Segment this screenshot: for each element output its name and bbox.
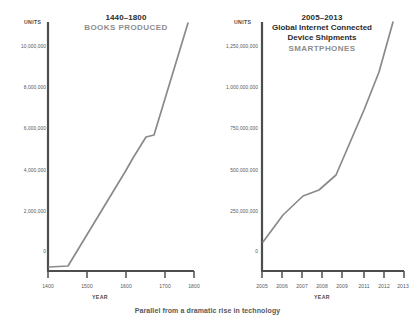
- chart-panels: UNITS 1440–1800 BOOKS PRODUCED 10,000,00…: [0, 0, 415, 300]
- data-line-devices: [263, 22, 393, 242]
- dual-chart-figure: UNITS 1440–1800 BOOKS PRODUCED 10,000,00…: [0, 0, 415, 321]
- chart-plot-right: [207, 0, 415, 300]
- data-line-books: [49, 23, 188, 267]
- figure-caption: Parallel from a dramatic rise in technol…: [0, 307, 415, 321]
- chart-plot-left: [0, 0, 207, 300]
- chart-panel-devices: UNITS 2005–2013 Global Internet Connecte…: [207, 0, 415, 300]
- chart-panel-books: UNITS 1440–1800 BOOKS PRODUCED 10,000,00…: [0, 0, 207, 300]
